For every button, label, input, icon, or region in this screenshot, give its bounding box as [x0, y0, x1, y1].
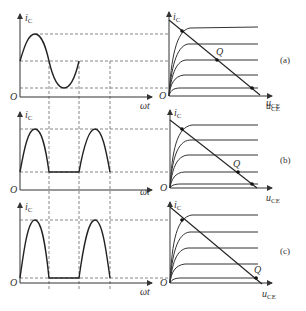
caption-c: (c) [280, 246, 290, 256]
caption-b: (b) [280, 155, 291, 165]
svg-text:ωt: ωt [140, 286, 150, 297]
panel-c-output-characteristics: iC O uCE Q (c) [160, 199, 290, 301]
svg-text:Q: Q [233, 158, 241, 169]
svg-text:O: O [10, 277, 17, 288]
panel-b: iC O ωt iC O uCE uCE Q (b) [10, 97, 291, 205]
svg-text:Q: Q [216, 46, 224, 57]
svg-text:ωt: ωt [140, 186, 150, 197]
svg-text:O: O [160, 182, 167, 193]
q-point [215, 58, 219, 62]
svg-text:iC: iC [25, 201, 33, 214]
panel-c: iC O ωt iC O uCE Q (c) [10, 199, 290, 301]
svg-text:iC: iC [174, 107, 182, 120]
ic-label: iC [25, 12, 33, 25]
ic-clipped-wave [20, 129, 110, 172]
origin-label: O [10, 91, 17, 102]
panel-b-waveform: iC O ωt [10, 109, 168, 197]
svg-text:uCE: uCE [262, 288, 276, 301]
svg-text:O: O [10, 184, 17, 195]
svg-text:O: O [160, 277, 167, 288]
svg-text:uCE: uCE [266, 192, 280, 205]
panel-a-waveform: iC O ωt [10, 12, 168, 290]
panel-c-waveform: iC O ωt [10, 201, 168, 297]
svg-text:iC: iC [173, 11, 181, 24]
svg-text:Q: Q [254, 264, 262, 275]
class-abc-amplifier-diagram: iC O ωt iC O uCE [0, 0, 306, 311]
q-point [236, 170, 240, 174]
panel-b-output-characteristics: iC O uCE uCE Q (b) [160, 97, 291, 205]
ic-half-sine-wave [20, 220, 110, 278]
wt-label: ωt [140, 100, 150, 111]
svg-text:iC: iC [174, 199, 182, 212]
q-point [254, 276, 258, 280]
svg-text:iC: iC [25, 109, 33, 122]
svg-text:O: O [159, 90, 166, 101]
caption-a: (a) [280, 55, 290, 65]
